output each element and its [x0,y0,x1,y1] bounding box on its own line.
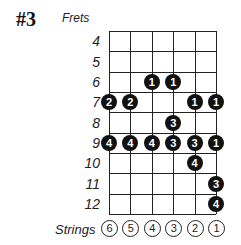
string-number: 6 [101,220,118,237]
string-number: 3 [165,220,182,237]
fret-number: 12 [58,196,100,212]
finger-dot: 3 [165,135,181,151]
fret-line [109,133,216,134]
finger-dot: 1 [208,135,224,151]
finger-dot: 1 [144,74,160,90]
fret-number: 11 [58,176,100,192]
finger-dot: 3 [208,176,224,192]
fret-line [109,51,216,52]
fretboard-grid: 1122113444331434 [109,31,216,214]
fret-line [109,92,216,93]
finger-dot: 4 [208,196,224,212]
fret-line [109,72,216,73]
string-line [109,31,110,214]
fret-number: 4 [58,33,100,49]
finger-dot: 4 [101,135,117,151]
finger-dot: 1 [187,94,203,110]
fret-number: 8 [58,115,100,131]
fret-number: 5 [58,54,100,70]
finger-dot: 3 [187,135,203,151]
fret-number: 7 [58,94,100,110]
finger-dot: 4 [187,155,203,171]
finger-dot: 4 [122,135,138,151]
finger-dot: 2 [122,94,138,110]
fret-line [109,31,216,32]
fret-number: 6 [58,74,100,90]
fret-number: 9 [58,135,100,151]
fret-line [109,214,216,215]
finger-dot: 3 [165,115,181,131]
string-number: 2 [187,220,204,237]
fret-line [109,112,216,113]
frets-label: Frets [62,11,89,25]
fret-line [109,153,216,154]
strings-label: Strings [55,222,95,237]
string-number: 1 [208,220,225,237]
finger-dot: 4 [144,135,160,151]
finger-dot: 1 [165,74,181,90]
string-line [152,31,153,214]
string-line [130,31,131,214]
fret-line [109,173,216,174]
fret-line [109,194,216,195]
finger-dot: 2 [101,94,117,110]
fret-number: 10 [58,155,100,171]
finger-dot: 1 [208,94,224,110]
string-line [195,31,196,214]
diagram-title: #3 [16,8,36,31]
string-number: 4 [144,220,161,237]
string-number: 5 [122,220,139,237]
